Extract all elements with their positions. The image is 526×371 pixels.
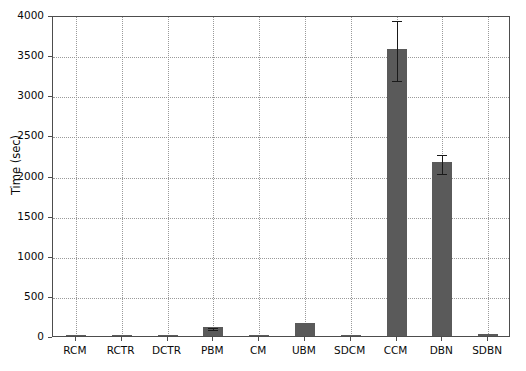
y-tick-label: 4000 bbox=[0, 10, 44, 21]
x-tick-mark bbox=[304, 337, 305, 341]
x-tick-mark bbox=[258, 337, 259, 341]
x-tick-mark bbox=[396, 337, 397, 341]
x-tick-mark bbox=[350, 337, 351, 341]
y-tick-mark bbox=[48, 297, 52, 298]
x-tick-mark bbox=[212, 337, 213, 341]
y-tick-mark bbox=[48, 56, 52, 57]
y-tick-mark bbox=[48, 16, 52, 17]
bar-chart: 05001000150020002500300035004000 RCMRCTR… bbox=[0, 0, 526, 371]
y-tick-mark bbox=[48, 337, 52, 338]
y-tick-label: 0 bbox=[0, 331, 44, 342]
x-tick-mark bbox=[441, 337, 442, 341]
x-tick-mark bbox=[487, 337, 488, 341]
x-tick-mark bbox=[75, 337, 76, 341]
y-tick-mark bbox=[48, 217, 52, 218]
y-tick-mark bbox=[48, 177, 52, 178]
y-axis: 05001000150020002500300035004000 bbox=[0, 0, 526, 371]
y-axis-title: Time (sec) bbox=[9, 55, 23, 275]
x-tick-label-sdbn: SDBN bbox=[457, 344, 517, 356]
y-tick-mark bbox=[48, 96, 52, 97]
x-tick-mark bbox=[167, 337, 168, 341]
x-tick-mark bbox=[121, 337, 122, 341]
y-tick-label: 500 bbox=[0, 291, 44, 302]
y-tick-mark bbox=[48, 257, 52, 258]
y-tick-mark bbox=[48, 136, 52, 137]
